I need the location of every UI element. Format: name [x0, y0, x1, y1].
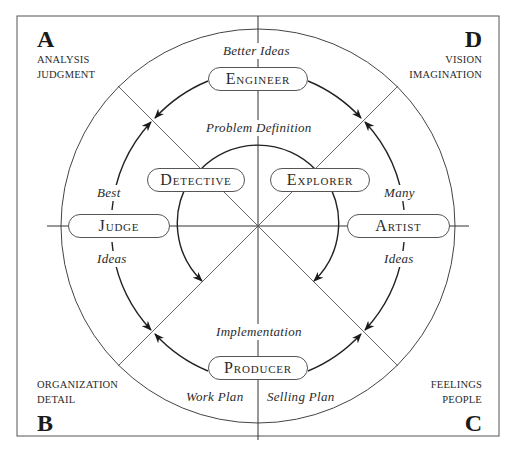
label-better-ideas: Better Ideas [221, 43, 292, 59]
quadrant-d-line2: IMAGINATION [409, 67, 482, 82]
label-ideas-right: Ideas [382, 251, 416, 267]
arrow-engineer-to-nw [155, 81, 208, 118]
quadrant-c-text: FEELINGS PEOPLE [431, 377, 482, 407]
arrow-producer-to-sw [155, 334, 208, 371]
creative-roles-diagram: A ANALYSIS JUDGMENT D VISION IMAGINATION… [0, 0, 512, 450]
label-selling-plan: Selling Plan [267, 389, 335, 405]
quadrant-c-line1: FEELINGS [431, 377, 482, 392]
quadrant-d-letter: D [465, 27, 482, 51]
arrow-detective-down [177, 180, 202, 281]
label-many: Many [382, 185, 417, 201]
quadrant-a-line2: JUDGMENT [37, 67, 95, 82]
label-problem-definition: Problem Definition [204, 120, 314, 136]
quadrant-b-text: ORGANIZATION DETAIL [37, 377, 118, 407]
quadrant-b-line2: DETAIL [37, 392, 118, 407]
quadrant-a-line1: ANALYSIS [37, 52, 95, 67]
role-producer: Producer [208, 356, 308, 380]
quadrant-c-line2: PEOPLE [431, 392, 482, 407]
quadrant-d-line1: VISION [409, 52, 482, 67]
arrow-producer-to-se [308, 334, 361, 371]
arrow-engineer-to-ne [308, 81, 361, 118]
role-detective: Detective [147, 168, 245, 192]
quadrant-b-letter: B [37, 411, 53, 435]
label-best: Best [95, 185, 123, 201]
label-ideas-left: Ideas [95, 251, 129, 267]
quadrant-b-line1: ORGANIZATION [37, 377, 118, 392]
role-judge: Judge [68, 214, 170, 238]
quadrant-d-text: VISION IMAGINATION [409, 52, 482, 82]
quadrant-a-letter: A [37, 27, 54, 51]
arrow-explorer-down [314, 180, 339, 281]
label-work-plan: Work Plan [186, 389, 243, 405]
role-explorer: Explorer [270, 168, 370, 192]
role-engineer: Engineer [208, 67, 308, 91]
label-implementation: Implementation [214, 324, 304, 340]
role-artist: Artist [347, 214, 450, 238]
quadrant-c-letter: C [465, 411, 482, 435]
quadrant-a-text: ANALYSIS JUDGMENT [37, 52, 95, 82]
